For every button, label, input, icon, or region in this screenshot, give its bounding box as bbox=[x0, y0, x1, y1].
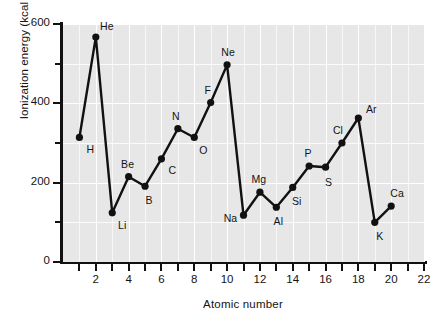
x-axis-tick-label: 14 bbox=[286, 273, 299, 285]
y-axis-tick-label: 600 bbox=[31, 16, 50, 28]
data-point-marker bbox=[109, 209, 116, 216]
data-point-marker bbox=[240, 212, 247, 219]
x-axis-tick-label: 16 bbox=[319, 273, 332, 285]
x-axis-tick-label: 12 bbox=[254, 273, 267, 285]
y-axis-tick-label: 200 bbox=[31, 175, 50, 187]
data-point-label: C bbox=[169, 164, 177, 176]
y-axis-tick bbox=[55, 142, 63, 144]
x-axis-tick bbox=[308, 264, 310, 271]
data-point-label: Li bbox=[118, 219, 126, 231]
y-axis-tick-label: 400 bbox=[31, 95, 50, 107]
x-axis-tick bbox=[111, 264, 113, 271]
x-axis-tick bbox=[259, 264, 261, 271]
data-point-marker bbox=[289, 184, 296, 191]
x-axis-tick bbox=[95, 264, 97, 271]
y-axis-tick bbox=[53, 182, 63, 184]
x-axis-tick bbox=[210, 264, 212, 271]
data-point-label: He bbox=[100, 20, 114, 32]
x-axis-tick-label: 4 bbox=[125, 273, 131, 285]
data-point-marker bbox=[141, 183, 148, 190]
data-point-label: Ar bbox=[366, 103, 377, 115]
data-point-label: Ca bbox=[390, 187, 404, 199]
x-axis-tick-label: 6 bbox=[158, 273, 164, 285]
data-point-marker bbox=[174, 125, 181, 132]
x-axis-tick bbox=[407, 264, 409, 271]
y-axis-tick bbox=[55, 221, 63, 223]
y-axis-tick-label: 0 bbox=[44, 254, 50, 266]
x-axis-tick bbox=[325, 264, 327, 271]
data-point-marker bbox=[92, 33, 99, 40]
x-axis-tick bbox=[177, 264, 179, 271]
data-point-marker bbox=[322, 164, 329, 171]
x-axis-tick bbox=[128, 264, 130, 271]
x-axis-tick bbox=[374, 264, 376, 271]
series-line bbox=[79, 37, 391, 222]
y-axis-tick bbox=[53, 23, 63, 25]
data-point-label: Mg bbox=[252, 173, 267, 185]
data-point-label: F bbox=[204, 84, 211, 96]
data-point-marker bbox=[338, 139, 345, 146]
x-axis-tick bbox=[292, 264, 294, 271]
data-point-marker bbox=[207, 99, 214, 106]
x-axis-tick bbox=[275, 264, 277, 271]
data-point-label: H bbox=[87, 143, 95, 155]
data-point-label: Cl bbox=[333, 124, 343, 136]
x-axis-tick bbox=[226, 264, 228, 271]
data-point-marker bbox=[355, 114, 362, 121]
chart-figure: Ionization energy (kcal / mole) 02004006… bbox=[0, 0, 446, 321]
x-axis-tick bbox=[390, 264, 392, 271]
x-axis-tick bbox=[341, 264, 343, 271]
data-point-marker bbox=[256, 189, 263, 196]
gridline-vertical bbox=[424, 24, 425, 262]
data-point-marker bbox=[125, 173, 132, 180]
data-point-marker bbox=[223, 61, 230, 68]
data-point-label: Be bbox=[121, 158, 134, 170]
x-axis-tick bbox=[193, 264, 195, 271]
data-point-label: N bbox=[172, 110, 180, 122]
x-axis-tick bbox=[243, 264, 245, 271]
x-axis-tick-label: 20 bbox=[385, 273, 398, 285]
x-axis-tick-label: 18 bbox=[352, 273, 365, 285]
x-axis-tick bbox=[160, 264, 162, 271]
x-axis-tick-label: 2 bbox=[93, 273, 99, 285]
data-point-marker bbox=[76, 134, 83, 141]
x-axis-tick bbox=[423, 264, 425, 271]
data-point-marker bbox=[273, 204, 280, 211]
x-axis-title: Atomic number bbox=[60, 298, 426, 310]
data-point-label: Na bbox=[224, 212, 238, 224]
data-point-marker bbox=[388, 202, 395, 209]
x-axis-tick bbox=[144, 264, 146, 271]
data-point-label: S bbox=[325, 176, 332, 188]
y-axis-tick bbox=[53, 261, 63, 263]
data-point-label: Al bbox=[274, 215, 284, 227]
x-axis-tick bbox=[357, 264, 359, 271]
data-point-label: K bbox=[376, 230, 383, 242]
y-axis-tick bbox=[53, 102, 63, 104]
data-point-marker bbox=[191, 134, 198, 141]
data-point-label: P bbox=[305, 147, 312, 159]
data-point-label: B bbox=[145, 194, 152, 206]
y-axis-tick bbox=[55, 63, 63, 65]
x-axis-tick bbox=[78, 264, 80, 271]
x-axis-tick-label: 8 bbox=[191, 273, 197, 285]
data-point-marker bbox=[306, 162, 313, 169]
plot-area: 0200400600 246810121416182022 HHeLiBeBCN… bbox=[63, 24, 424, 262]
x-axis-tick-label: 10 bbox=[221, 273, 234, 285]
data-point-label: O bbox=[199, 144, 207, 156]
data-point-marker bbox=[371, 219, 378, 226]
x-axis-tick-label: 22 bbox=[418, 273, 431, 285]
data-point-label: Si bbox=[292, 195, 302, 207]
data-point-label: Ne bbox=[221, 46, 235, 58]
data-point-marker bbox=[158, 155, 165, 162]
